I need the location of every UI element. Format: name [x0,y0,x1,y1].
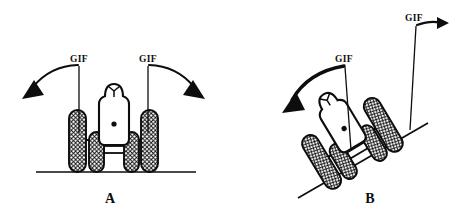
gif-label-left-b: GIF [335,54,353,64]
panel-label-a: A [105,191,116,206]
center-of-gravity-dot-a [111,121,116,126]
gif-label-right-b: GIF [405,13,423,23]
wheel-far-right-a [141,110,158,172]
diagram-svg: GIF GIF A [0,0,453,221]
panel-label-b: B [365,191,374,206]
gif-line-right-b [410,26,416,130]
vehicle-body-a [99,84,129,145]
panel-b: GIF GIF B [282,13,449,206]
figure-canvas: GIF GIF A [0,0,453,221]
wheel-far-left-a [69,110,86,172]
curved-arrow-left-a [22,65,78,99]
panel-a: GIF GIF A [22,54,205,206]
vehicle-assembly-b [285,72,406,192]
gif-label-left-a: GIF [70,54,88,64]
curved-arrow-right-a [149,65,205,99]
gif-label-right-a: GIF [139,54,157,64]
